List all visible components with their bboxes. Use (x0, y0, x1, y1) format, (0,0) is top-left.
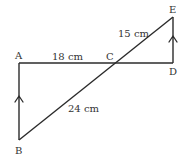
vertex-label-C: C (106, 51, 114, 62)
geometry-diagram: A B C D E 18 cm 15 cm 24 cm (0, 0, 187, 165)
vertex-label-D: D (169, 66, 177, 77)
measurement-AC: 18 cm (52, 51, 84, 62)
vertex-label-B: B (15, 145, 22, 156)
segment-BE (19, 17, 173, 140)
vertex-label-A: A (14, 50, 23, 61)
vertex-label-E: E (169, 4, 176, 15)
measurement-BC: 24 cm (68, 103, 100, 114)
measurement-CE: 15 cm (118, 28, 150, 39)
